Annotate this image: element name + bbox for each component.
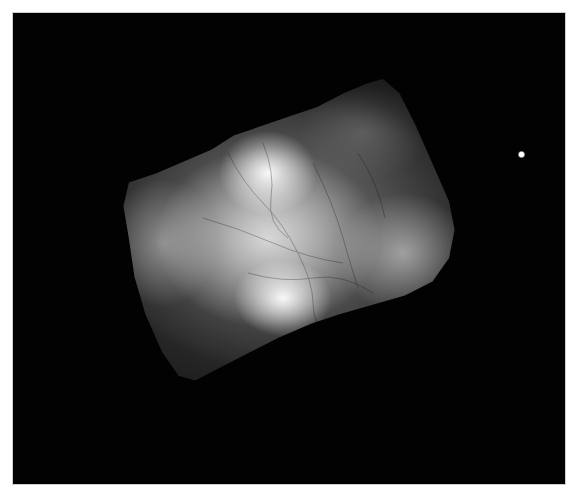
nebula-filament-texture bbox=[13, 13, 565, 484]
nebula bbox=[13, 13, 565, 484]
star bbox=[518, 151, 525, 158]
astronomical-image-frame: nebula star bbox=[13, 13, 565, 484]
